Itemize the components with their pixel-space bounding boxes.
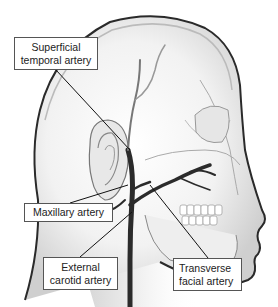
label-line: Superficial	[21, 41, 92, 54]
label-line: Transverse	[179, 262, 233, 275]
label-superficial-temporal-artery: Superficial temporal artery	[14, 37, 98, 70]
label-line: temporal artery	[21, 54, 92, 67]
label-transverse-facial-artery: Transverse facial artery	[173, 258, 242, 291]
label-external-carotid-artery: External carotid artery	[43, 257, 118, 290]
label-line: Maxillary artery	[33, 206, 104, 219]
label-line: facial artery	[179, 275, 233, 288]
label-maxillary-artery: Maxillary artery	[24, 203, 113, 222]
label-line: External	[50, 261, 111, 274]
label-line: carotid artery	[50, 274, 111, 287]
